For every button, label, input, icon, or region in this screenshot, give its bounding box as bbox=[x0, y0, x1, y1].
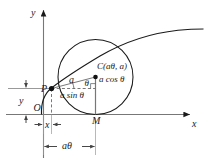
cycloid-diagram: y x O P C(aθ, a) M a a cos θ a sin θ θ y… bbox=[0, 0, 204, 163]
atheta-dimension-label: aθ bbox=[62, 141, 72, 151]
y-axis-label: y bbox=[31, 8, 35, 18]
origin-label: O bbox=[34, 103, 41, 113]
point-P-dot bbox=[49, 86, 54, 91]
x-dimension-label: x bbox=[45, 120, 49, 130]
right-angle-mark bbox=[91, 84, 96, 89]
radius-label: a bbox=[69, 75, 74, 85]
point-C-label: C(aθ, a) bbox=[97, 62, 127, 71]
vertical-leg-label: a cos θ bbox=[99, 75, 124, 84]
point-M-label: M bbox=[92, 116, 100, 126]
point-P-label: P bbox=[41, 84, 47, 94]
point-C-dot bbox=[93, 75, 98, 80]
angle-theta-label: θ bbox=[85, 79, 89, 88]
horizontal-leg-label: a sin θ bbox=[60, 91, 84, 100]
cycloid-curve bbox=[41, 29, 203, 115]
x-axis-label: x bbox=[192, 119, 196, 129]
height-dimension-label: y bbox=[19, 96, 23, 106]
